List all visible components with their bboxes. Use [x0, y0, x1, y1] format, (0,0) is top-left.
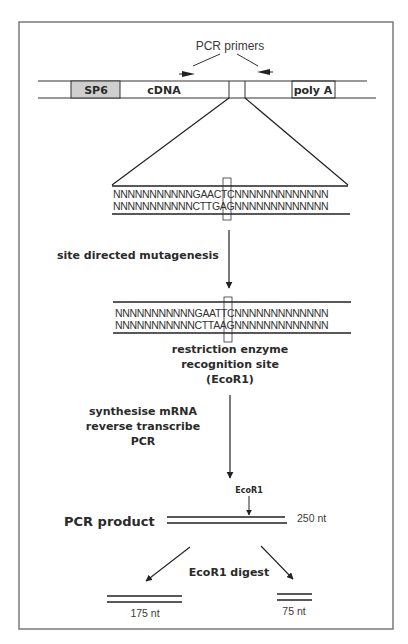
- fragment-75-label: 75 nt: [282, 605, 305, 617]
- mutagenesis-label: site directed mutagenesis: [57, 249, 219, 262]
- primers-label: PCR primers: [196, 39, 265, 53]
- pcr-product-duplex: [167, 517, 287, 523]
- mut-top-strand: NNNNNNNNNNNGAATTCNNNNNNNNNNNNN: [115, 307, 328, 319]
- primer-pointer-right: [237, 54, 258, 66]
- fragment-175-label: 175 nt: [130, 607, 159, 619]
- mut-bottom-strand: NNNNNNNNNNNCTTAAGNNNNNNNNNNNNN: [115, 319, 328, 331]
- step2-line1: synthesise mRNA: [89, 405, 197, 418]
- site-caption-line2: recognition site: [181, 358, 279, 371]
- pcr-product-label: PCR product: [64, 514, 155, 529]
- digest-arrow-left-icon: [146, 547, 190, 581]
- zoom-line-left: [112, 98, 229, 185]
- reverse-primer-arrow-icon: [257, 69, 273, 75]
- ecor1-site-label: EcoR1: [235, 486, 263, 495]
- polya-label: poly A: [294, 84, 333, 97]
- wt-top-strand: NNNNNNNNNNNGAACTCNNNNNNNNNNNNN: [113, 188, 328, 200]
- site-caption-line1: restriction enzyme: [172, 343, 288, 356]
- fragment-75: [277, 594, 312, 600]
- digest-label: EcoR1 digest: [189, 566, 269, 579]
- wt-bottom-strand: NNNNNNNNNNNCTTGAGNNNNNNNNNNNNN: [113, 200, 328, 212]
- mutant-sequence: NNNNNNNNNNNGAATTCNNNNNNNNNNNNN NNNNNNNNN…: [113, 297, 351, 342]
- step2-line3: PCR: [131, 435, 156, 448]
- fragment-175: [107, 596, 182, 602]
- cdna-label: cDNA: [147, 84, 181, 97]
- sp6-label: SP6: [84, 84, 108, 97]
- pcr-product-size: 250 nt: [297, 512, 326, 524]
- primer-pointer-left: [193, 54, 220, 66]
- step2-line2: reverse transcribe: [86, 420, 200, 433]
- forward-primer-arrow-icon: [179, 71, 195, 77]
- construct-map: SP6 cDNA poly A: [38, 81, 376, 98]
- site-caption-line3: (EcoR1): [206, 373, 254, 386]
- wild-type-sequence: NNNNNNNNNNNGAACTCNNNNNNNNNNNNN NNNNNNNNN…: [112, 178, 350, 220]
- zoom-line-right: [245, 98, 348, 185]
- mutagenesis-diagram: PCR primers SP6 cDNA poly A NNNNNNNNNNNG…: [0, 0, 408, 644]
